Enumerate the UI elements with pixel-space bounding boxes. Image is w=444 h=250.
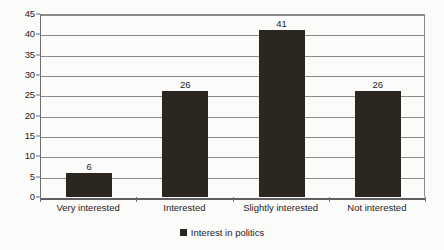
legend-swatch-icon xyxy=(180,229,187,236)
x-category-label: Slightly interested xyxy=(243,203,318,213)
gridline xyxy=(41,76,425,77)
chart-legend: Interest in politics xyxy=(0,228,444,238)
bar-value-label: 26 xyxy=(373,80,384,90)
x-tick-mark xyxy=(136,197,137,202)
bar-value-label: 26 xyxy=(180,80,191,90)
plot-right-border xyxy=(424,15,425,197)
bar-value-label: 6 xyxy=(86,162,91,172)
gridline xyxy=(41,56,425,57)
y-tick-label: 45 xyxy=(9,9,35,19)
y-tick-label: 25 xyxy=(9,91,35,101)
x-tick-mark xyxy=(233,197,234,202)
bar-chart: 051015202530354045 6264126 Very interest… xyxy=(0,0,444,250)
y-tick-label: 20 xyxy=(9,111,35,121)
x-tick-mark xyxy=(425,197,426,202)
bar xyxy=(66,173,112,197)
y-tick-label: 35 xyxy=(9,50,35,60)
x-category-label: Very interested xyxy=(56,203,119,213)
gridline xyxy=(41,35,425,36)
y-tick-label: 0 xyxy=(9,192,35,202)
bar xyxy=(162,91,208,197)
y-tick-label: 30 xyxy=(9,70,35,80)
x-tick-mark xyxy=(329,197,330,202)
x-category-label: Interested xyxy=(163,203,205,213)
y-tick-label: 10 xyxy=(9,152,35,162)
bar xyxy=(355,91,401,197)
plot-area: 6264126 xyxy=(40,14,425,197)
bar-value-label: 41 xyxy=(276,19,287,29)
x-tick-mark xyxy=(40,197,41,202)
x-category-label: Not interested xyxy=(347,203,406,213)
y-tick-label: 15 xyxy=(9,131,35,141)
legend-label: Interest in politics xyxy=(191,228,264,238)
y-tick-label: 5 xyxy=(9,172,35,182)
gridline xyxy=(41,15,425,16)
y-tick-label: 40 xyxy=(9,30,35,40)
bar xyxy=(259,30,305,197)
